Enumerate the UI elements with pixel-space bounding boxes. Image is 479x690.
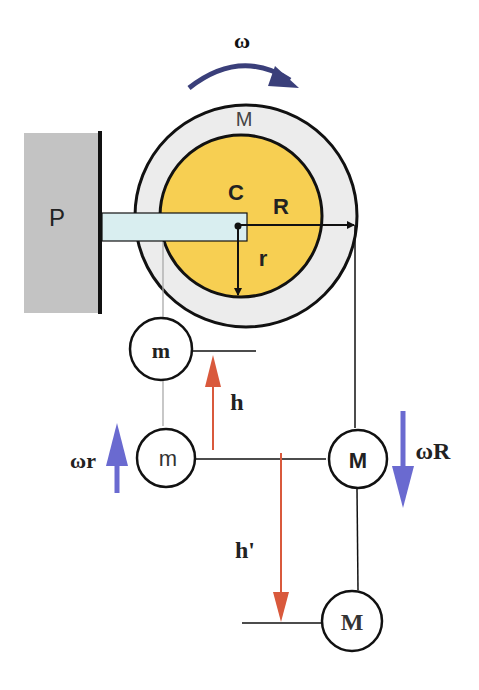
velocity-m-arrowhead: [106, 423, 128, 466]
height-h-arrowhead: [205, 355, 221, 387]
support-arm: [102, 213, 247, 241]
outer-radius-label: R: [273, 194, 289, 219]
mass-M-middle-label: M: [349, 448, 367, 473]
center-label: C: [228, 180, 244, 205]
outer-mass-label: M: [236, 108, 253, 130]
height-h-label: h: [230, 389, 243, 415]
height-h-prime-arrowhead: [273, 592, 289, 622]
mass-m-bottom-label: m: [159, 446, 177, 471]
mass-M-bottom-label: M: [341, 609, 364, 635]
omega-label: ω: [234, 28, 250, 53]
wall-label: P: [49, 204, 65, 231]
string-M-lower: [357, 489, 358, 590]
pulley-diagram: P ω M C R r m m M M h h' ωr ωR: [0, 0, 479, 690]
velocity-M-arrowhead: [392, 466, 414, 508]
inner-radius-label: r: [259, 246, 268, 271]
velocity-m-label: ωr: [70, 448, 96, 473]
velocity-M-label: ωR: [416, 438, 452, 464]
mass-m-top-label: m: [152, 338, 170, 363]
height-h-prime-label: h': [235, 537, 255, 563]
